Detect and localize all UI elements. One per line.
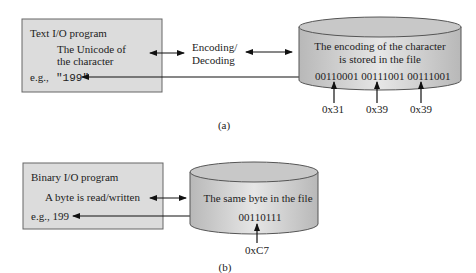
binary-io-title: Binary I/O program <box>31 171 119 183</box>
same-byte-label: The same byte in the file <box>203 192 312 204</box>
caption-a: (a) <box>218 119 231 132</box>
unicode-line1: The Unicode of <box>57 43 126 55</box>
example-prefix: e.g., <box>30 71 49 83</box>
example-199: e.g., 199 <box>31 210 69 222</box>
diagram-canvas: Text I/O program The Unicode of the char… <box>0 0 476 273</box>
file-line2: is stored in the file <box>339 53 421 65</box>
file-line1: The encoding of the character <box>314 40 446 52</box>
decoding-label: Decoding <box>192 54 235 66</box>
byte-read-written: A byte is read/written <box>45 191 141 203</box>
file-bits-b: 00110111 <box>239 211 282 223</box>
hex-0: 0x31 <box>322 103 344 115</box>
encoding-label: Encoding/ <box>192 41 238 53</box>
hex-1: 0x39 <box>366 103 389 115</box>
caption-b: (b) <box>219 261 232 273</box>
example-value: "199" <box>56 72 89 84</box>
hex-c7: 0xC7 <box>245 244 269 256</box>
panel-a: Text I/O program The Unicode of the char… <box>22 17 461 132</box>
panel-b: Binary I/O program A byte is read/writte… <box>23 162 318 273</box>
text-io-title: Text I/O program <box>30 27 107 39</box>
unicode-line2: the character <box>57 55 114 67</box>
hex-2: 0x39 <box>410 103 433 115</box>
file-bits: 00110001 00111001 00111001 <box>315 70 450 82</box>
